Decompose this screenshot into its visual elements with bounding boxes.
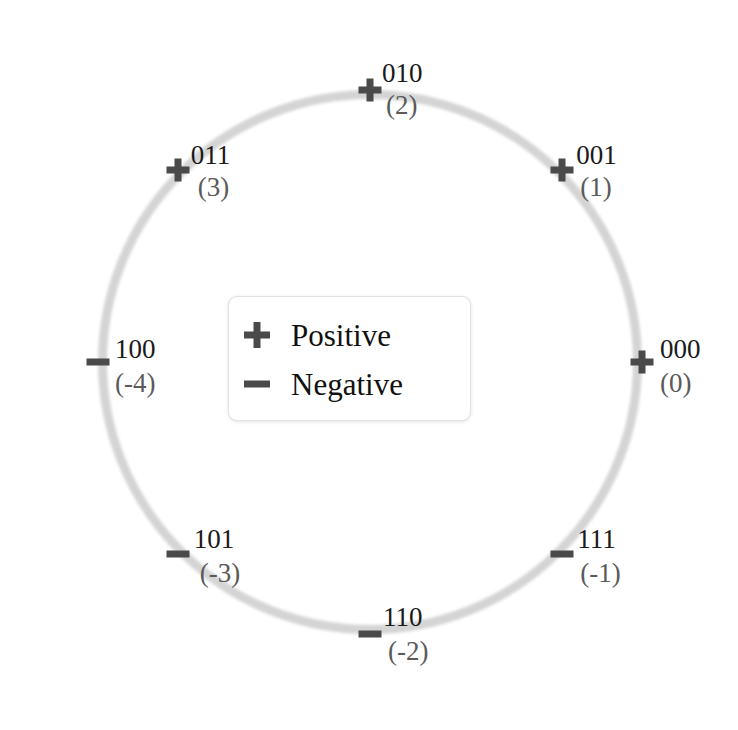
- node-value-label: (-2): [388, 638, 428, 665]
- node-value-label: (3): [198, 174, 229, 201]
- legend-item-negative: Negative: [229, 360, 470, 408]
- number-wheel-diagram: 000(0)001(1)010(2)011(3)100(-4)101(-3)11…: [0, 0, 738, 730]
- node-bits-label: 111: [577, 526, 616, 553]
- legend-label-positive: Positive: [291, 320, 391, 351]
- node-bits-label: 110: [383, 604, 423, 631]
- node-value-label: (-1): [580, 560, 620, 587]
- node-value-label: (-4): [115, 370, 155, 397]
- node-value-label: (0): [660, 370, 691, 397]
- node-bits-label: 010: [382, 60, 423, 87]
- legend-item-positive: Positive: [229, 311, 470, 359]
- legend-label-negative: Negative: [291, 369, 403, 400]
- node-value-label: (1): [580, 174, 611, 201]
- node-value-label: (2): [386, 92, 417, 119]
- node-bits-label: 100: [115, 336, 156, 363]
- node-bits-label: 001: [576, 142, 617, 169]
- node-value-label: (-3): [200, 560, 240, 587]
- plus-marker-icon: [229, 315, 285, 355]
- node-bits-label: 011: [191, 142, 231, 169]
- node-bits-label: 000: [660, 336, 701, 363]
- node-bits-label: 101: [194, 526, 235, 553]
- legend-box: Positive Negative: [228, 296, 471, 421]
- minus-marker-icon: [229, 364, 285, 404]
